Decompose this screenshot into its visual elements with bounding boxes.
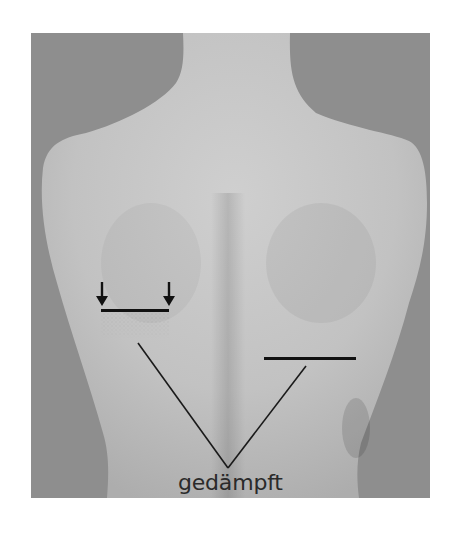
dullness-label: gedämpft — [178, 470, 273, 496]
back-photo-figure: gedämpft — [31, 33, 430, 498]
scapula-shadow-right — [266, 203, 376, 323]
dullness-bar-left — [101, 309, 169, 312]
dullness-bar-right — [264, 357, 356, 360]
scapula-shadow-left — [101, 203, 201, 323]
dullness-stipple — [101, 311, 169, 339]
back-illustration — [31, 33, 430, 498]
waist-shadow-right — [342, 398, 370, 458]
